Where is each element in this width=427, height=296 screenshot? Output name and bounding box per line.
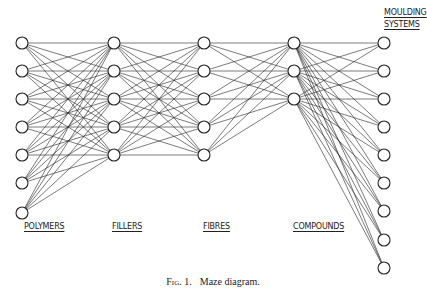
node-polymers-2 — [16, 65, 28, 77]
node-fillers-4 — [108, 121, 120, 133]
label-moulding-systems-line2: SYSTEMS — [384, 20, 420, 30]
figure-caption: Fig. 1.Maze diagram. — [0, 276, 426, 287]
node-moulding_systems-6 — [378, 177, 390, 189]
node-fibres-4 — [198, 121, 210, 133]
edge-compounds-moulding_systems — [294, 99, 384, 183]
node-moulding_systems-1 — [378, 37, 390, 49]
edge-compounds-moulding_systems — [294, 99, 384, 240]
node-moulding_systems-4 — [378, 121, 390, 133]
node-fillers-5 — [108, 149, 120, 161]
edge-polymers-fillers — [22, 155, 114, 213]
label-fillers: FILLERS — [112, 222, 142, 232]
edge-polymers-fillers — [22, 43, 114, 213]
node-moulding_systems-5 — [378, 149, 390, 161]
edge-compounds-moulding_systems — [294, 99, 384, 155]
node-fillers-3 — [108, 93, 120, 105]
edge-compounds-moulding_systems — [294, 99, 384, 127]
edge-compounds-moulding_systems — [294, 99, 384, 211]
label-fibres: FIBRES — [203, 222, 230, 232]
node-polymers-7 — [16, 207, 28, 219]
edge-compounds-moulding_systems — [294, 71, 384, 240]
node-compounds-1 — [288, 37, 300, 49]
node-fibres-1 — [198, 37, 210, 49]
node-compounds-3 — [288, 93, 300, 105]
node-polymers-4 — [16, 121, 28, 133]
node-polymers-1 — [16, 37, 28, 49]
caption-text: Maze diagram. — [200, 276, 260, 287]
edge-fibres-compounds — [204, 99, 294, 155]
layer-nodes — [16, 37, 390, 274]
edge-polymers-fillers — [22, 99, 114, 213]
edge-fibres-compounds — [204, 43, 294, 127]
label-polymers: POLYMERS — [24, 222, 64, 232]
node-fibres-2 — [198, 65, 210, 77]
node-moulding_systems-7 — [378, 205, 390, 217]
edge-polymers-fillers — [22, 43, 114, 183]
node-moulding_systems-8 — [378, 234, 390, 246]
node-fillers-1 — [108, 37, 120, 49]
edge-fibres-compounds — [204, 71, 294, 155]
node-fibres-3 — [198, 93, 210, 105]
node-polymers-6 — [16, 177, 28, 189]
edge-polymers-fillers — [22, 155, 114, 183]
label-moulding-systems-line1: MOULDING — [384, 8, 427, 18]
edge-compounds-moulding_systems — [294, 99, 384, 268]
node-polymers-5 — [16, 149, 28, 161]
node-compounds-2 — [288, 65, 300, 77]
node-polymers-3 — [16, 93, 28, 105]
node-fibres-5 — [198, 149, 210, 161]
label-compounds: COMPOUNDS — [293, 222, 344, 232]
node-moulding_systems-2 — [378, 65, 390, 77]
node-fillers-2 — [108, 65, 120, 77]
figure-number: Fig. 1. — [166, 276, 191, 287]
node-moulding_systems-9 — [378, 262, 390, 274]
node-moulding_systems-3 — [378, 93, 390, 105]
